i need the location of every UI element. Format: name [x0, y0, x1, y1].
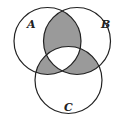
venn-diagram: A B C [0, 0, 130, 120]
label-c: C [64, 101, 73, 114]
label-b: B [100, 18, 110, 31]
label-a: A [26, 18, 36, 31]
